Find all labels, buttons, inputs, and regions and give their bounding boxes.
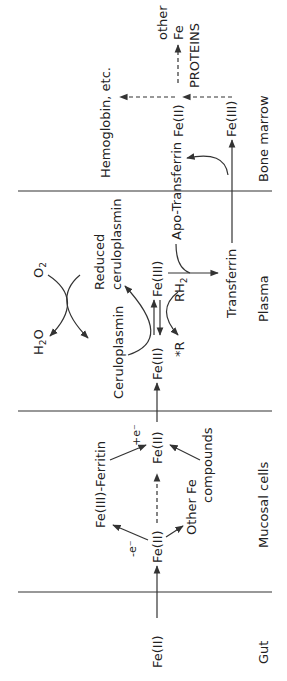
arrow-compounds-to-fe2 [170,445,200,460]
marrow-fe2: Fe(II) [171,104,186,137]
plasma-transferrin: Transferrin [224,249,239,319]
label-plasma: Plasma [256,275,271,322]
arrow-to-other-fe [166,526,183,537]
arc-ceruloplasmin-cycle [125,286,151,355]
plasma-fe2: Fe(II) [150,347,165,380]
plasma-r-star: *R [172,341,187,357]
marrow-other: other [155,5,170,40]
marrow-proteins: PROTEINS [187,23,202,88]
arrow-ferritin-to-fe2 [110,445,146,460]
mucosal-fe2-exit: Fe(II) [150,431,165,464]
plasma-ceruloplasmin: Ceruloplasmin [111,306,126,399]
plasma-rh2: RH2 [172,277,189,302]
mucosal-other-fe-2: compounds [200,427,215,503]
plasma-o2: O2 [31,262,48,278]
mucosal-ferritin: Fe(III)-Ferritin [93,441,108,528]
mucosal-plus-e: +e⁻ [130,424,143,446]
marrow-fe3: Fe(III) [224,101,239,137]
iron-transport-diagram: Gut Mucosal cells Plasma Bone marrow Fe(… [0,0,287,681]
plasma-h2o: H2O [31,329,48,355]
plasma-fe3: Fe(III) [150,261,165,297]
plasma-apo-transferrin: Apo-Transferrin [169,142,184,240]
arrow-to-ferritin [113,525,148,540]
arc-apo-transferrin-binding [176,244,190,273]
label-gut: Gut [256,641,271,664]
mucosal-other-fe-1: Other Fe [184,479,199,535]
mucosal-minus-e: -e⁻ [126,540,139,557]
plasma-reduced-1: Reduced [92,234,107,290]
gut-fe2: Fe(II) [150,635,165,668]
arc-recycle-apo-transferrin [187,156,228,175]
label-mucosal: Mucosal cells [256,462,271,548]
label-bone-marrow: Bone marrow [256,95,271,182]
marrow-hemoglobin: Hemoglobin, etc. [98,67,113,178]
arc-reduced-to-ceruloplasmin [67,275,88,338]
marrow-fe: Fe [171,25,186,40]
arc-o2-to-h2o [48,275,68,336]
plasma-reduced-2: ceruloplasmin [109,199,124,290]
mucosal-fe2-entry: Fe(II) [150,530,165,563]
